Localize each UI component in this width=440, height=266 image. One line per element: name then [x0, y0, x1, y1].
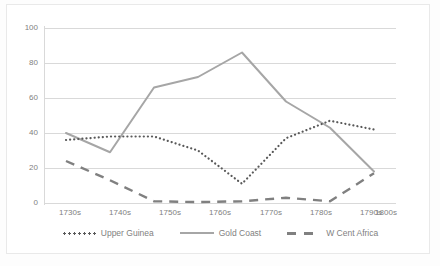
y-tick-label-80: 80 — [6, 59, 38, 67]
series-line-w-cent-africa — [66, 161, 374, 202]
y-tick-label-40: 40 — [6, 129, 38, 137]
series-line-upper-guinea — [66, 121, 374, 184]
x-tick-label-1800s: 1800s — [360, 208, 412, 217]
chart-page: 100 80 60 40 20 0 1730s 1740s 1750s 1760… — [0, 0, 440, 266]
x-tick-label-1770s: 1770s — [245, 208, 297, 217]
legend-label-upper-guinea: Upper Guinea — [101, 228, 154, 238]
series-line-gold-coast — [66, 53, 374, 172]
legend-item-upper-guinea[interactable]: Upper Guinea — [62, 228, 154, 238]
series-layer — [44, 28, 396, 203]
legend-swatch-dashed-icon — [287, 232, 321, 235]
y-tick-label-20: 20 — [6, 164, 38, 172]
y-tick-label-100: 100 — [6, 24, 38, 32]
legend-label-gold-coast: Gold Coast — [219, 228, 262, 238]
x-tick-label-1730s: 1730s — [44, 208, 96, 217]
x-tick-label-1750s: 1750s — [144, 208, 196, 217]
legend-item-gold-coast[interactable]: Gold Coast — [180, 228, 262, 238]
gridline-0 — [44, 203, 396, 204]
chart-legend: Upper Guinea Gold Coast W Cent Africa — [0, 228, 440, 238]
x-tick-label-1740s: 1740s — [94, 208, 146, 217]
x-tick-label-1780s: 1780s — [295, 208, 347, 217]
x-tick-label-1760s: 1760s — [194, 208, 246, 217]
legend-swatch-dotted-icon — [62, 232, 96, 235]
legend-label-w-cent-africa: W Cent Africa — [326, 228, 378, 238]
legend-item-w-cent-africa[interactable]: W Cent Africa — [287, 228, 378, 238]
y-tick-label-60: 60 — [6, 94, 38, 102]
legend-swatch-solid-icon — [180, 232, 214, 234]
y-tick-label-0: 0 — [6, 199, 38, 207]
